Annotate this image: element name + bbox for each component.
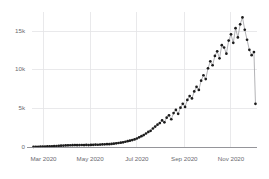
data-point (170, 118, 173, 121)
data-point (172, 112, 175, 115)
data-point (122, 141, 125, 144)
data-point (243, 28, 246, 31)
data-point (216, 50, 219, 53)
data-point (218, 57, 221, 60)
data-point (165, 116, 168, 119)
data-point (181, 102, 184, 105)
data-point (239, 23, 242, 26)
data-point (113, 142, 116, 145)
data-point (67, 144, 70, 147)
data-point (200, 79, 203, 82)
data-point (76, 144, 79, 147)
data-point (184, 106, 187, 109)
data-point (64, 144, 67, 147)
y-tick-label: 0 (22, 143, 26, 150)
data-point (99, 143, 102, 146)
data-point (101, 143, 104, 146)
data-point (158, 122, 161, 125)
data-point (90, 144, 93, 147)
data-point (253, 51, 256, 54)
data-point (237, 36, 240, 39)
data-point (246, 38, 249, 41)
y-tick-label: 5k (18, 104, 25, 111)
data-point (232, 42, 235, 45)
x-tick-label: May 2020 (77, 155, 105, 162)
y-tick-label: 10k (15, 65, 26, 72)
data-point (83, 144, 86, 147)
data-point (163, 121, 166, 124)
data-point (191, 97, 194, 100)
data-point (94, 143, 97, 146)
data-point (133, 138, 136, 141)
x-tick-label: Mar 2020 (30, 155, 57, 162)
data-point (87, 144, 90, 147)
data-point (177, 112, 180, 115)
data-point (138, 136, 141, 139)
data-point (154, 125, 157, 128)
data-point (80, 144, 83, 147)
data-point (211, 64, 214, 67)
data-point (204, 78, 207, 81)
data-point (136, 137, 139, 140)
data-point (225, 52, 228, 55)
data-point (214, 55, 217, 58)
data-point (142, 134, 145, 137)
x-axis-tick-labels: Mar 2020May 2020Jul 2020Sep 2020Nov 2020 (30, 155, 244, 162)
data-point (92, 143, 95, 146)
data-point (188, 95, 191, 98)
data-point (152, 127, 155, 130)
chart-container: 05k10k15k Mar 2020May 2020Jul 2020Sep 20… (0, 0, 269, 179)
data-point (241, 16, 244, 19)
x-tick-label: Jul 2020 (125, 155, 149, 162)
data-point (223, 46, 226, 49)
data-point (106, 143, 109, 146)
series-line-0 (34, 17, 256, 146)
time-series-chart: 05k10k15k Mar 2020May 2020Jul 2020Sep 20… (0, 0, 269, 179)
data-point (145, 132, 148, 135)
data-point (108, 143, 111, 146)
data-point (131, 139, 134, 142)
data-point (227, 39, 230, 42)
data-point (140, 135, 143, 138)
data-point (78, 144, 81, 147)
data-point (193, 90, 196, 93)
data-point (117, 142, 120, 145)
data-point (156, 123, 159, 126)
data-point (254, 102, 257, 105)
data-point (103, 143, 106, 146)
series-layer (32, 16, 257, 148)
data-point (119, 141, 122, 144)
data-point (175, 109, 178, 112)
grid-layer (32, 12, 257, 147)
y-axis-tick-labels: 05k10k15k (15, 27, 26, 150)
data-point (129, 139, 132, 142)
data-point (234, 27, 237, 30)
data-point (110, 143, 113, 146)
data-point (209, 60, 212, 63)
data-point (202, 74, 205, 77)
data-point (230, 33, 233, 36)
data-point (96, 143, 99, 146)
data-point (147, 131, 150, 134)
data-point (71, 144, 74, 147)
data-point (179, 106, 182, 109)
data-point (168, 114, 171, 117)
data-point (195, 85, 198, 88)
data-point (186, 99, 189, 102)
data-point (197, 89, 200, 92)
data-point (161, 119, 164, 122)
data-point (248, 48, 251, 51)
x-tick-label: Nov 2020 (218, 155, 245, 162)
data-point (220, 44, 223, 47)
data-point (126, 140, 129, 143)
x-tick-label: Sep 2020 (171, 155, 198, 162)
data-point (115, 142, 118, 145)
data-point (149, 129, 152, 132)
data-point (207, 67, 210, 70)
data-point (74, 144, 77, 147)
data-point (44, 145, 47, 148)
y-tick-label: 15k (15, 27, 26, 34)
data-point (124, 140, 127, 143)
data-point (250, 54, 253, 57)
